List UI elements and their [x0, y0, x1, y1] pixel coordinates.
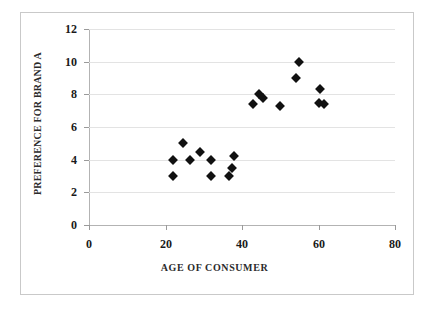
data-point [195, 147, 205, 157]
x-tick-mark-0 [89, 225, 90, 230]
y-tick-label-12: 12 [51, 23, 77, 35]
x-tick-label-20: 20 [151, 238, 181, 250]
data-point [206, 171, 216, 181]
data-point [168, 171, 178, 181]
y-tick-label-4: 4 [51, 154, 77, 166]
x-tick-mark-60 [319, 225, 320, 230]
data-point [229, 151, 239, 161]
x-tick-label-40: 40 [227, 238, 257, 250]
y-tick-label-8: 8 [51, 88, 77, 100]
data-point [178, 138, 188, 148]
x-tick-label-60: 60 [304, 238, 334, 250]
y-tick-label-10: 10 [51, 56, 77, 68]
y-tick-label-0: 0 [51, 219, 77, 231]
x-tick-label-80: 80 [380, 238, 410, 250]
y-tick-label-6: 6 [51, 121, 77, 133]
y-axis-title: PREFERENCE FOR BRAND A [32, 24, 43, 224]
data-point [206, 155, 216, 165]
plot-area [89, 29, 395, 225]
data-point [294, 57, 304, 67]
chart-screenshot: PREFERENCE FOR BRAND A AGE OF CONSUMER 0… [0, 0, 429, 309]
data-point [319, 99, 329, 109]
x-axis-title: AGE OF CONSUMER [0, 262, 429, 273]
data-point [315, 84, 325, 94]
data-point [185, 155, 195, 165]
data-point [249, 99, 259, 109]
data-point [168, 155, 178, 165]
x-tick-label-0: 0 [74, 238, 104, 250]
data-point [275, 101, 285, 111]
y-tick-label-2: 2 [51, 186, 77, 198]
data-point [291, 73, 301, 83]
x-tick-mark-20 [166, 225, 167, 230]
x-tick-mark-40 [242, 225, 243, 230]
x-tick-mark-80 [395, 225, 396, 230]
